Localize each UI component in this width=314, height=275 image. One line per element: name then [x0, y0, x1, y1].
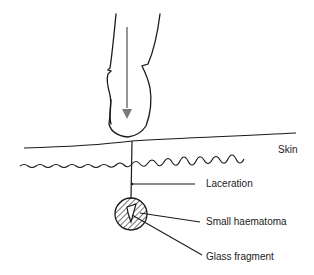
- skin-surface-line: [24, 133, 296, 148]
- label-glass-fragment: Glass fragment: [206, 251, 274, 262]
- label-laceration: Laceration: [206, 178, 253, 189]
- leader-haematoma: [140, 213, 200, 222]
- laceration-track: [131, 141, 132, 199]
- label-haematoma: Small haematoma: [206, 216, 287, 227]
- pressure-arrow-icon: [122, 27, 132, 119]
- finger-drawing: [107, 14, 160, 137]
- diagram-canvas: [0, 0, 314, 275]
- label-skin: Skin: [278, 144, 297, 155]
